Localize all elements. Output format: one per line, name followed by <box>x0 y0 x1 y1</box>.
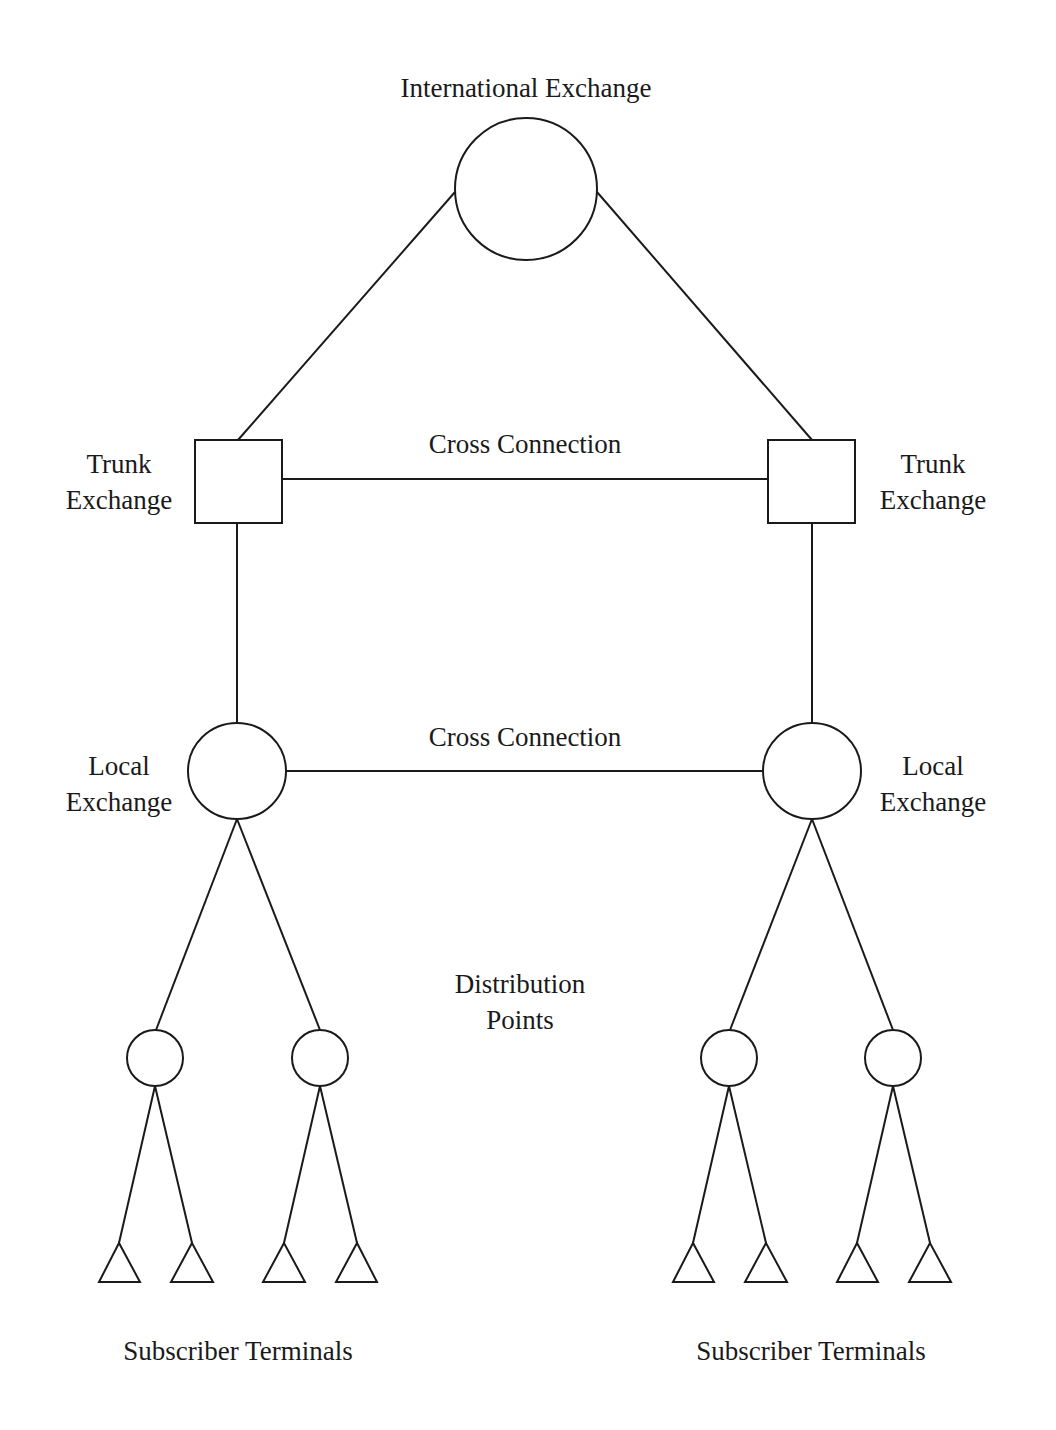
subscriber-terminal-1 <box>99 1243 140 1282</box>
trunk-exchange-left-node <box>195 440 282 523</box>
trunk-exchange-left-label: Trunk Exchange <box>44 446 194 518</box>
local-right-line1: Local <box>858 748 1008 784</box>
subscriber-terminal-3 <box>263 1243 305 1282</box>
local-right-line2: Exchange <box>858 784 1008 820</box>
link-intl-trunk-left <box>238 192 455 440</box>
local-exchange-right-label: Local Exchange <box>858 748 1008 820</box>
link-local-dp-3 <box>730 819 812 1030</box>
trunk-exchange-right-label: Trunk Exchange <box>858 446 1008 518</box>
distribution-point-4 <box>865 1030 921 1086</box>
subscriber-terminal-7 <box>837 1243 878 1282</box>
distribution-line1: Distribution <box>420 966 620 1002</box>
distribution-point-2 <box>292 1030 348 1086</box>
link-intl-trunk-right <box>597 192 812 440</box>
trunk-right-line1: Trunk <box>858 446 1008 482</box>
subscriber-terminal-4 <box>336 1243 377 1282</box>
trunk-left-line1: Trunk <box>44 446 194 482</box>
local-exchange-left-label: Local Exchange <box>44 748 194 820</box>
trunk-exchange-right-node <box>768 440 855 523</box>
subscriber-terminals-left-label: Subscriber Terminals <box>88 1333 388 1369</box>
link-local-dp-4 <box>812 819 893 1030</box>
international-exchange-label: International Exchange <box>376 70 676 106</box>
subscriber-terminal-5 <box>673 1243 714 1282</box>
local-exchange-right-node <box>763 723 861 819</box>
subscriber-terminals-right-label: Subscriber Terminals <box>661 1333 961 1369</box>
local-exchange-left-node <box>188 723 286 819</box>
distribution-points-label: Distribution Points <box>420 966 620 1038</box>
cross-connection-label-lower: Cross Connection <box>395 719 655 755</box>
link-local-dp-1 <box>156 819 237 1030</box>
link-local-dp-2 <box>237 819 320 1030</box>
cross-connection-label-upper: Cross Connection <box>395 426 655 462</box>
subscriber-terminal-2 <box>171 1243 213 1282</box>
local-left-line1: Local <box>44 748 194 784</box>
telecom-hierarchy-diagram <box>0 0 1056 1430</box>
distribution-point-3 <box>701 1030 757 1086</box>
trunk-right-line2: Exchange <box>858 482 1008 518</box>
trunk-left-line2: Exchange <box>44 482 194 518</box>
local-left-line2: Exchange <box>44 784 194 820</box>
distribution-point-1 <box>127 1030 183 1086</box>
distribution-line2: Points <box>420 1002 620 1038</box>
subscriber-terminal-6 <box>745 1243 787 1282</box>
international-exchange-node <box>455 118 597 260</box>
subscriber-terminal-8 <box>909 1243 951 1282</box>
